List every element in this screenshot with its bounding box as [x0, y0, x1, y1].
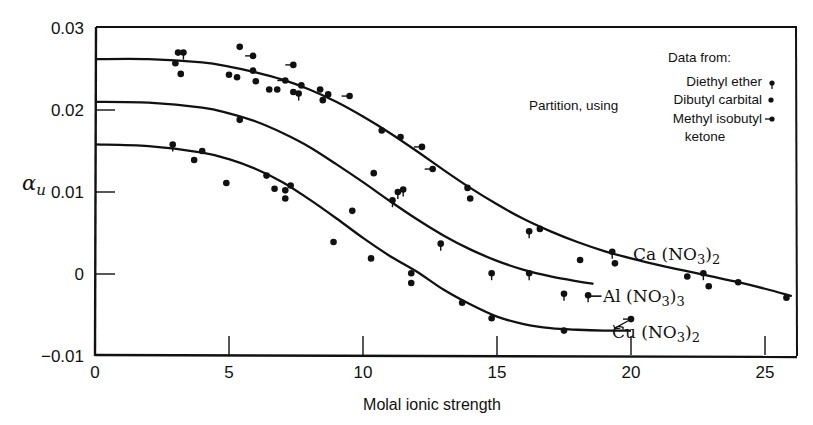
- y-tick-label: −0.01: [41, 347, 84, 366]
- data-point: [298, 82, 305, 89]
- data-point: [609, 249, 616, 259]
- data-point: [295, 90, 302, 100]
- data-point: [349, 208, 356, 215]
- legend-marker-dibutyl-carbital-icon: [768, 97, 773, 102]
- data-point: [320, 97, 327, 104]
- data-point: [274, 86, 281, 93]
- data-point: [735, 279, 742, 286]
- y-tick-label: 0.01: [51, 183, 84, 202]
- x-tick-label: 25: [756, 363, 775, 382]
- data-point: [330, 239, 337, 246]
- data-point: [368, 255, 375, 262]
- x-tick-label: 5: [224, 363, 233, 382]
- x-tick-label: 15: [488, 363, 507, 382]
- data-point: [169, 141, 176, 151]
- data-point: [488, 315, 495, 322]
- curve-labels: Ca (NO3)2Al (NO3)3Cu (NO3)2: [602, 244, 720, 345]
- legend-marker-methyl-isobutyl-icon: [765, 116, 775, 121]
- data-point: [285, 62, 296, 69]
- data-point: [684, 273, 691, 280]
- data-point: [287, 182, 294, 189]
- data-point: [561, 290, 568, 300]
- legend: Data from: Diethyl ether Dibutyl carbita…: [668, 50, 775, 144]
- data-point: [253, 78, 260, 85]
- data-point: [526, 228, 533, 238]
- legend-entry-methyl-isobutyl: Methyl isobutyl: [673, 111, 762, 126]
- data-point: [236, 44, 243, 51]
- x-axis-ticks: 0510152025: [90, 336, 774, 382]
- data-point: [282, 187, 289, 194]
- curve-label-cu: Cu (NO3)2: [612, 322, 700, 345]
- data-point: [561, 327, 568, 334]
- data-point: [488, 270, 495, 280]
- data-point: [177, 71, 184, 78]
- data-point: [271, 185, 278, 192]
- data-point: [408, 270, 415, 277]
- curve-al: [95, 102, 593, 284]
- x-tick-label: 0: [90, 363, 99, 382]
- data-point: [266, 86, 273, 93]
- data-point: [172, 60, 179, 67]
- legend-marker-diethyl-ether-icon: [769, 80, 774, 89]
- curve-cu: [95, 144, 631, 330]
- data-point: [783, 294, 790, 301]
- curve-label-ca: Ca (NO3)2: [633, 244, 720, 267]
- data-point: [370, 170, 377, 177]
- data-point: [612, 260, 619, 267]
- y-tick-label: 0: [75, 265, 84, 284]
- data-point: [180, 49, 187, 59]
- data-point: [585, 292, 592, 302]
- y-tick-label: 0.03: [51, 19, 84, 38]
- data-point: [378, 127, 385, 134]
- data-point: [577, 257, 584, 264]
- data-point: [464, 185, 471, 192]
- data-point: [459, 299, 466, 306]
- data-point: [325, 91, 332, 98]
- data-point: [537, 226, 544, 233]
- data-point: [408, 280, 415, 287]
- data-point: [236, 117, 243, 124]
- data-point: [400, 186, 407, 196]
- data-point: [705, 283, 712, 290]
- data-point: [245, 53, 256, 60]
- data-point: [223, 180, 230, 187]
- data-point: [526, 270, 533, 280]
- data-point: [234, 74, 241, 81]
- data-point: [425, 166, 436, 173]
- legend-entry-diethyl-ether: Diethyl ether: [686, 74, 762, 89]
- x-axis-label: Molal ionic strength: [363, 396, 501, 413]
- y-axis-label: αu: [22, 171, 46, 199]
- y-tick-label: 0.02: [51, 101, 84, 120]
- chart: −0.0100.010.020.03 0510152025 αu Molal i…: [0, 0, 813, 425]
- y-axis-ticks: −0.0100.010.020.03: [41, 19, 115, 366]
- annotation-partition: Partition, using: [529, 98, 618, 113]
- data-point: [397, 134, 404, 141]
- x-tick-label: 20: [622, 363, 641, 382]
- data-point: [250, 67, 257, 74]
- x-tick-label: 10: [354, 363, 373, 382]
- legend-title: Data from:: [668, 50, 731, 65]
- data-point: [263, 172, 270, 179]
- data-point: [317, 86, 324, 93]
- data-point: [342, 93, 353, 100]
- data-point: [191, 157, 198, 164]
- data-point: [282, 195, 289, 202]
- legend-entry-ketone: ketone: [685, 129, 726, 144]
- data-point: [467, 195, 474, 202]
- curve-label-al: Al (NO3)3: [602, 286, 685, 309]
- data-point: [226, 71, 233, 78]
- data-point: [437, 240, 444, 250]
- data-point: [700, 270, 707, 280]
- data-point: [199, 148, 206, 155]
- legend-entry-dibutyl-carbital: Dibutyl carbital: [673, 92, 762, 107]
